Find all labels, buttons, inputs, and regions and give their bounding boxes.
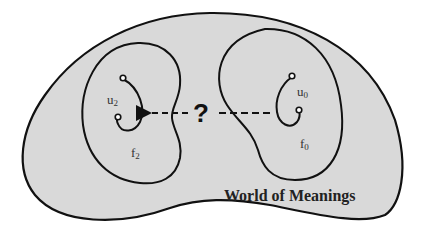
world-of-meanings-diagram: ? u2 f2 u0 f0 World of Meanings <box>0 0 421 234</box>
world-title: World of Meanings <box>224 187 356 205</box>
question-mark: ? <box>193 98 209 128</box>
